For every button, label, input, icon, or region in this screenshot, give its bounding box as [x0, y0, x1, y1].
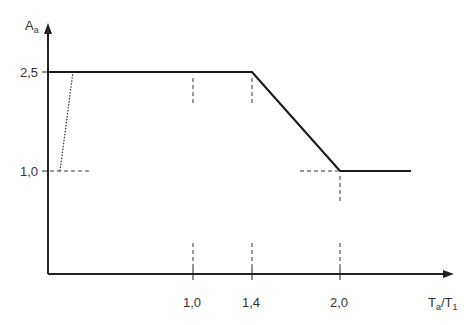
x-tick-label-1-4: 1,4 [242, 295, 260, 310]
y-tick-label-2-5: 2,5 [20, 65, 38, 80]
x-tick-label-1-0: 1,0 [183, 295, 201, 310]
y-tick-label-1-0: 1,0 [20, 164, 38, 179]
dotted-transition-line [60, 72, 73, 171]
x-axis-title: Ta/T1 [428, 295, 458, 312]
y-axis-arrow-icon [44, 23, 52, 34]
guide-lines [50, 78, 340, 268]
chart: 2,5 1,0 1,0 1,4 2,0 Aa Ta/T1 [0, 0, 475, 325]
spectrum-line [48, 72, 411, 171]
y-axis-title: Aa [25, 18, 39, 35]
x-tick-label-2-0: 2,0 [330, 295, 348, 310]
x-axis-arrow-icon [443, 270, 454, 278]
